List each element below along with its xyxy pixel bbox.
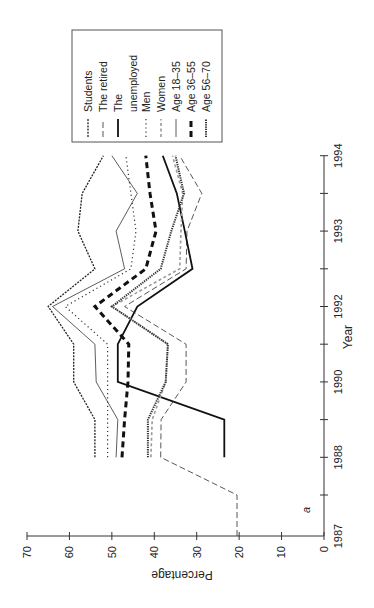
year-tick-label: 1992 [332,294,344,318]
legend-label: unemployed [127,55,139,112]
chart-axes: 010203040506070198719881990199219931994 [21,143,344,558]
legend-label: The [112,94,124,112]
legend-label: Men [140,91,152,112]
legend-label: Age 36–55 [185,61,197,112]
legend-label: Age 56–70 [200,61,212,112]
rotated-line-chart: 010203040506070198719881990199219931994 … [0,0,374,608]
percentage-tick-label: 60 [63,546,75,558]
percentage-tick-label: 10 [275,546,287,558]
x-axis-title: Year [341,325,355,349]
chart-legend: StudentsThe retiredTheunemployedMenWomen… [72,30,222,142]
year-tick-label: 1990 [332,370,344,394]
year-tick-label: 1988 [332,445,344,469]
percentage-tick-label: 20 [233,546,245,558]
legend-label: Women [155,76,167,112]
percentage-tick-label: 50 [106,546,118,558]
legend-label: The retired [97,61,109,112]
legend-label: Students [82,71,94,112]
chart-series-lines [48,156,237,536]
percentage-tick-label: 70 [21,546,33,558]
y-axis-title: Percentage [151,568,213,582]
legend-label: Age 18–35 [170,61,182,112]
year-tick-label: 1994 [332,143,344,167]
percentage-tick-label: 40 [148,546,160,558]
year-tick-label: 1987 [332,524,344,548]
year-tick-label: 1993 [332,219,344,243]
series-line-age-56-70 [112,156,184,458]
percentage-tick-label: 0 [318,546,330,552]
series-line-the-unemployed [118,156,225,458]
series-line-women [112,156,183,458]
panel-label: a [300,507,312,513]
percentage-tick-label: 30 [191,546,203,558]
